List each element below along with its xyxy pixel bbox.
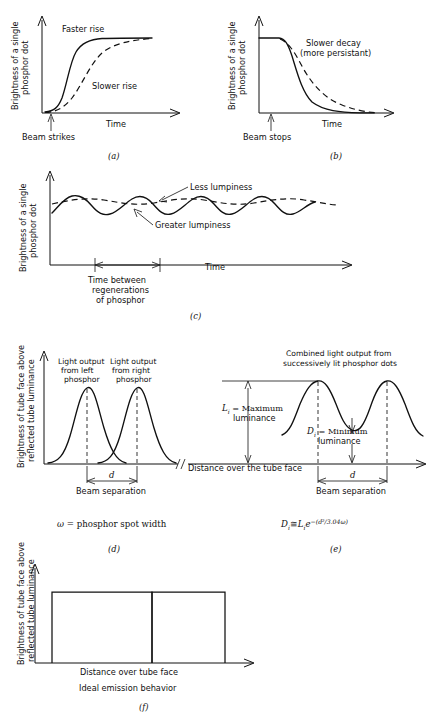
panel-d-label-left-3: phosphor <box>64 375 101 384</box>
panel-a-label-slower-rise: Slower rise <box>92 81 137 91</box>
panel-d-label-left-1: Light output <box>58 357 104 366</box>
phosphor-characteristics-figure: Brightness of a single phosphor dot Fast… <box>0 0 435 714</box>
panel-e-formula: Di≅Lie−(d²/3.04ω) <box>280 518 348 531</box>
panel-a-curve-faster-rise <box>45 38 152 112</box>
panel-f-xlabel: Distance over tube face <box>80 667 178 677</box>
panel-d: Brightness of tube face above reflected … <box>16 345 302 554</box>
panel-b-label-beam-stops: Beam stops <box>243 132 291 142</box>
panel-f-axes <box>31 564 254 667</box>
panel-b-beam-stops-arrow <box>268 114 274 131</box>
panel-e-label-combined-1: Combined light output from <box>286 349 391 358</box>
panel-c-xlabel: Time <box>204 262 225 272</box>
panel-d-ylabel-line2: reflected tube luminance <box>26 359 36 462</box>
panel-c-ylabel-line2: phosphor dot <box>28 203 38 258</box>
panel-e-formula-rel: ≅ <box>290 519 298 529</box>
panel-e: Combined light output from successively … <box>188 349 426 554</box>
panel-a-axes <box>38 16 180 117</box>
panel-b-xlabel: Time <box>321 119 342 129</box>
panel-f-caption: Ideal emission behavior <box>79 683 177 693</box>
panel-d-label-separation-symbol: d <box>109 470 115 480</box>
panel-b-label-slower-decay-2: (more persistant) <box>300 48 371 58</box>
panel-c-leader-greater-lumpiness <box>137 212 153 225</box>
panel-e-label-separation-symbol: d <box>350 470 356 480</box>
panel-e-min-text: = Minimum <box>316 426 368 436</box>
panel-b-ylabel-line2: phosphor dot <box>237 40 247 95</box>
panel-e-id: (e) <box>330 544 342 554</box>
panel-e-label-combined-2: successively lit phosphor dots <box>283 359 397 368</box>
panel-c-label-less-lumpiness: Less lumpiness <box>190 182 252 192</box>
panel-d-label-beam-separation: Beam separation <box>76 486 146 496</box>
panel-d-label-right-3: phosphor <box>116 375 153 384</box>
panel-e-formula-lhs: D <box>280 519 288 529</box>
panel-e-formula-exponent: −(d²/3.04ω) <box>311 518 349 525</box>
panel-a-label-faster-rise: Faster rise <box>62 24 104 34</box>
panel-c-label-regen-2: regenerations <box>92 285 149 295</box>
panel-a-ylabel-line2: phosphor dot <box>20 40 30 95</box>
panel-b-axes <box>255 16 394 117</box>
panel-a-id: (a) <box>108 151 120 161</box>
panel-d-id: (d) <box>108 544 120 554</box>
panel-f-ylabel-line1: Brightness of tube face above <box>16 542 26 665</box>
panel-b-label-slower-decay-1: Slower decay <box>306 38 361 48</box>
panel-c-label-regen-1: Time between <box>87 275 146 285</box>
panel-c-ylabel-line1: Brightness of a single <box>18 183 28 272</box>
panel-b-id: (b) <box>330 151 342 161</box>
panel-d-formula-text: = phosphor spot width <box>64 519 167 529</box>
panel-e-label-max-luminance-2: luminance <box>233 413 276 423</box>
panel-d-ylabel-line1: Brightness of tube face above <box>16 345 26 468</box>
panel-f-rect-pulses <box>52 592 225 663</box>
panel-e-min-sym: D <box>306 426 314 436</box>
panel-f-id: (f) <box>139 702 149 712</box>
panel-d-label-left-2: from left <box>61 366 93 375</box>
panel-a: Brightness of a single phosphor dot Fast… <box>10 16 180 161</box>
svg-text:ω = phosphor spot width: ω = phosphor spot width <box>57 519 167 529</box>
panel-c-curve-less-lumpiness <box>52 199 336 205</box>
panel-c-regeneration-interval <box>95 258 160 272</box>
panel-f: Brightness of tube face above reflected … <box>16 542 254 712</box>
panel-b-ylabel-line1: Brightness of a single <box>227 21 237 110</box>
panel-d-label-right-2: from right <box>112 366 150 375</box>
panel-a-xlabel: Time <box>105 119 126 129</box>
panel-e-label-beam-separation: Beam separation <box>316 486 386 496</box>
panel-a-beam-strikes-arrow <box>48 114 54 131</box>
panel-c-leader-less-lumpiness <box>162 187 188 200</box>
panel-e-max-text: = Maximum <box>230 403 284 413</box>
panel-a-ylabel-line1: Brightness of a single <box>10 21 20 110</box>
panel-c-label-greater-lumpiness: Greater lumpiness <box>155 220 230 230</box>
panel-d-label-right-1: Light output <box>110 357 156 366</box>
panel-d-formula-symbol: ω <box>57 519 64 529</box>
panel-c-id: (c) <box>190 311 201 321</box>
panel-c-label-regen-3: of phosphor <box>96 295 146 305</box>
panel-e-label-min-luminance-2: luminance <box>318 436 361 446</box>
panel-c: Brightness of a single phosphor dot Less… <box>18 171 352 321</box>
panel-b: Brightness of a single phosphor dot Slow… <box>227 16 394 161</box>
panel-a-label-beam-strikes: Beam strikes <box>22 132 75 142</box>
panel-d-formula: ω = phosphor spot width <box>57 519 167 529</box>
